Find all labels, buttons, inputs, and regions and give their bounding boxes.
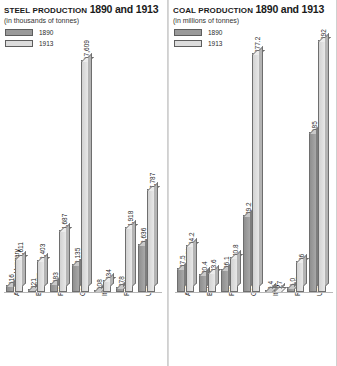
steel-plot-area: 5162,611Austria-Hungary2212,403Belgium68…: [0, 0, 168, 366]
bar-1913-belgium: [208, 272, 216, 292]
bar-side-face: [132, 220, 136, 287]
bar-side-face: [259, 46, 263, 287]
bar-1890-france: [221, 269, 229, 292]
bar-1913-russia: [296, 261, 304, 292]
bar-1913-italy: [103, 280, 111, 292]
bar-side-face: [22, 251, 26, 287]
chart-baseline: [175, 292, 333, 293]
bar-1890-germany: [72, 264, 80, 292]
bar-1913-belgium: [37, 260, 45, 292]
bar-side-face: [193, 238, 197, 287]
bar-1913-germany: [252, 53, 260, 292]
bar-side-face: [44, 253, 48, 287]
coal-chart-panel: Coal production 1890 and 1913 (in millio…: [168, 0, 337, 366]
bar-1913-austria-hungary: [186, 245, 194, 292]
bar-side-face: [110, 273, 114, 287]
bar-side-face: [237, 250, 241, 287]
bar-1913-austria-hungary: [15, 258, 23, 292]
chart-baseline: [4, 292, 162, 293]
bar-side-face: [88, 53, 92, 287]
bar-1913-france: [230, 257, 238, 292]
bar-1890-austria-hungary: [177, 268, 185, 292]
bar-1890-france: [50, 283, 58, 292]
bar-side-face: [66, 223, 70, 287]
bar-side-face: [325, 33, 329, 287]
bar-1890-united-kingdom: [309, 132, 317, 292]
bar-side-face: [215, 265, 219, 287]
bar-1890-austria-hungary: [6, 285, 14, 292]
bar-1913-france: [59, 230, 67, 292]
coal-plot-area: 27.554.2Austria-Hungary20.423.6Belgium26…: [169, 0, 337, 366]
bar-1890-united-kingdom: [138, 244, 146, 292]
bar-1913-united-kingdom: [318, 40, 326, 292]
bar-1913-united-kingdom: [147, 189, 155, 292]
steel-chart-panel: Steel production 1890 and 1913 (in thous…: [0, 0, 168, 366]
bar-1913-russia: [125, 227, 133, 292]
bar-1913-germany: [81, 60, 89, 292]
bar-1890-belgium: [199, 274, 207, 292]
bar-side-face: [303, 254, 307, 287]
bar-1890-germany: [243, 215, 251, 292]
bar-side-face: [154, 182, 158, 287]
